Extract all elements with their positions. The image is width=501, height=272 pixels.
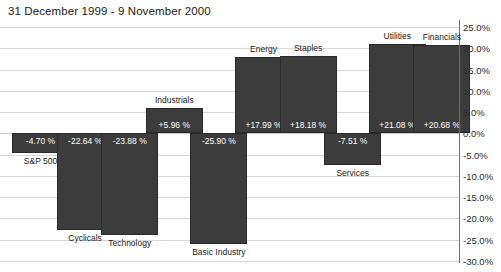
y-axis-tick-label: -15.0% xyxy=(463,192,493,203)
bar[interactable]: -23.88 % xyxy=(101,133,158,235)
y-axis-tick-label: -20.0% xyxy=(463,213,493,224)
category-label: Technology xyxy=(108,238,151,248)
bar-value-label: +20.68 % xyxy=(414,120,469,130)
category-label: Services xyxy=(336,168,369,178)
y-axis-tick-label: 5.0% xyxy=(463,107,485,118)
y-axis-tick-label: -10.0% xyxy=(463,170,493,181)
category-label: Staples xyxy=(294,43,322,53)
category-label: S&P 500 xyxy=(24,156,57,166)
bar[interactable]: -25.90 % xyxy=(190,133,247,243)
category-label: Cyclicals xyxy=(68,233,102,243)
y-axis-tick-label: 0.0% xyxy=(463,128,485,139)
category-label: Basic Industry xyxy=(192,247,245,257)
bar-value-label: -25.90 % xyxy=(191,136,246,146)
bar[interactable]: +20.68 % xyxy=(413,45,470,133)
category-label: Utilities xyxy=(384,31,411,41)
bar-value-label: -7.51 % xyxy=(325,136,380,146)
category-label: Financials xyxy=(423,32,461,42)
bar-value-label: -23.88 % xyxy=(102,136,157,146)
chart-container: 31 December 1999 - 9 November 2000 -4.70… xyxy=(0,0,501,272)
y-axis-tick-label: -25.0% xyxy=(463,234,493,245)
category-label: Industrials xyxy=(155,95,194,105)
y-axis-tick-label: -30.0% xyxy=(463,256,493,267)
bar[interactable]: +5.96 % xyxy=(146,108,203,133)
chart-title: 31 December 1999 - 9 November 2000 xyxy=(8,5,211,17)
bar[interactable]: +18.18 % xyxy=(280,56,337,133)
y-axis-tick-label: 15.0% xyxy=(463,64,490,75)
plot-area: -4.70 %-22.64 %-23.88 %+5.96 %-25.90 %+1… xyxy=(0,27,459,261)
category-label: Energy xyxy=(250,44,277,54)
gridline xyxy=(0,27,459,28)
bar[interactable]: -7.51 % xyxy=(324,133,381,165)
y-axis-tick-label: 20.0% xyxy=(463,43,490,54)
bar-value-label: +18.18 % xyxy=(281,120,336,130)
y-axis-tick-label: 25.0% xyxy=(463,22,490,33)
bar-value-label: +5.96 % xyxy=(147,120,202,130)
gridline xyxy=(0,261,459,262)
y-axis-tick-label: -5.0% xyxy=(463,149,488,160)
y-axis-line xyxy=(459,20,460,263)
y-axis-tick-label: 10.0% xyxy=(463,85,490,96)
